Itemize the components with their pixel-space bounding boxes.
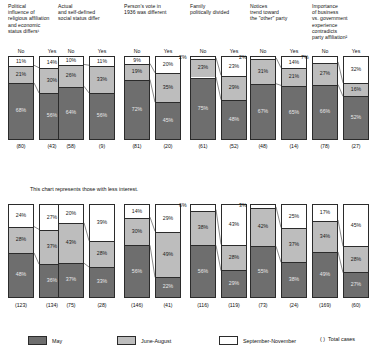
- bar-segment: 37%: [282, 228, 306, 262]
- segment-value: 64%: [66, 110, 76, 115]
- bar-segment: 49%: [156, 232, 180, 277]
- legend-paren-symbol: ( ): [320, 336, 325, 342]
- stacked-bar: 31%67%2%: [250, 56, 276, 140]
- legend-item-june-august: June-August: [117, 336, 171, 345]
- bar-body: 20%35%45%: [155, 56, 181, 140]
- segment-value: 22%: [163, 284, 173, 289]
- bar-segment: 29%: [156, 205, 180, 232]
- bar-segment: 25%: [282, 205, 306, 228]
- total-cases: (169): [312, 302, 338, 308]
- legend-item-may: May: [28, 336, 62, 345]
- total-cases: (119): [221, 302, 247, 308]
- segment-divider: [125, 80, 149, 81]
- segment-value: 30%: [47, 78, 57, 83]
- segment-value: 27%: [320, 71, 330, 76]
- total-cases: (78): [312, 143, 338, 149]
- total-cases: (41): [155, 302, 181, 308]
- segment-divider: [59, 263, 83, 264]
- segment-divider: [90, 241, 114, 242]
- segment-value: 65%: [289, 110, 299, 115]
- segment-value: 28%: [351, 257, 361, 262]
- segment-value-outside: 6%: [179, 203, 187, 208]
- segment-divider: [9, 66, 33, 67]
- segment-value: 42%: [258, 224, 268, 229]
- bar-segment: 14%: [125, 205, 149, 218]
- segment-value: 29%: [229, 85, 239, 90]
- stacked-bar: 23%75%2%: [190, 56, 216, 140]
- bar-body: 14%30%56%: [124, 204, 150, 298]
- bar-segment: 33%: [90, 267, 114, 297]
- segment-divider: [313, 63, 337, 64]
- stacked-bar: 20%35%45%: [155, 56, 181, 140]
- segment-divider: [90, 93, 114, 94]
- segment-value: 10%: [66, 58, 76, 63]
- segment-divider: [251, 59, 275, 60]
- bar-segment: 75%: [191, 78, 215, 140]
- stacked-bar: 20%43%37%: [58, 204, 84, 298]
- stacked-bar: 11%21%68%: [8, 56, 34, 140]
- stacked-bar: 25%37%38%: [281, 204, 307, 298]
- segment-value: 34%: [320, 234, 330, 239]
- segment-value: 55%: [258, 269, 268, 274]
- total-cases: (58): [58, 143, 84, 149]
- segment-value: 56%: [132, 269, 142, 274]
- stacked-bar: 9%19%72%: [124, 56, 150, 140]
- bar-body: 31%67%: [250, 56, 276, 140]
- bar-segment: 28%: [344, 246, 368, 272]
- segment-divider: [251, 246, 275, 247]
- total-cases: (9): [89, 143, 115, 149]
- segment-divider: [282, 86, 306, 87]
- segment-value: 28%: [229, 255, 239, 260]
- bar-segment: 19%: [125, 64, 149, 80]
- bar-segment: 21%: [9, 66, 33, 83]
- bar-segment: 56%: [125, 245, 149, 297]
- segment-value: 35%: [163, 85, 173, 90]
- segment-value: 56%: [47, 113, 57, 118]
- segment-value: 45%: [163, 118, 173, 123]
- bar-body: 25%37%38%: [281, 204, 307, 298]
- stacked-bar: 32%16%52%: [343, 56, 369, 140]
- segment-value: 33%: [97, 279, 107, 284]
- bar-segment: 31%: [251, 59, 275, 84]
- segment-divider: [191, 245, 215, 246]
- segment-divider: [156, 277, 180, 278]
- chart-note: This chart represents those with less in…: [30, 186, 138, 192]
- bar-segment: 49%: [313, 252, 337, 297]
- bar-segment: 38%: [191, 211, 215, 246]
- segment-value: 68%: [16, 108, 26, 113]
- segment-divider: [125, 64, 149, 65]
- bar-segment: 35%: [156, 73, 180, 102]
- segment-divider: [282, 262, 306, 263]
- segment-value: 28%: [16, 237, 26, 242]
- segment-value: 30%: [132, 229, 142, 234]
- segment-value: 20%: [163, 62, 173, 67]
- total-cases: (14): [281, 143, 307, 149]
- segment-divider: [222, 76, 246, 77]
- segment-value: 27%: [351, 282, 361, 287]
- segment-value: 37%: [289, 242, 299, 247]
- stacked-bar: 24%28%48%: [8, 204, 34, 298]
- bar-body: 14%21%65%: [281, 56, 307, 140]
- bar-segment: 11%: [9, 57, 33, 66]
- segment-divider: [156, 73, 180, 74]
- bar-body: 17%34%49%: [312, 204, 338, 298]
- segment-value: 23%: [229, 64, 239, 69]
- total-cases: (80): [8, 143, 34, 149]
- segment-value: 72%: [132, 107, 142, 112]
- bar-body: 45%28%27%: [343, 204, 369, 298]
- stacked-bar: 39%28%33%: [89, 204, 115, 298]
- bar-segment: 32%: [344, 57, 368, 83]
- segment-value: 75%: [198, 106, 208, 111]
- segment-divider: [222, 245, 246, 246]
- segment-divider: [59, 223, 83, 224]
- total-cases: (116): [190, 302, 216, 308]
- segment-value: 52%: [351, 115, 361, 120]
- stacked-bar: 17%34%49%: [312, 204, 338, 298]
- bar-segment: 29%: [222, 270, 246, 297]
- segment-value: 16%: [351, 87, 361, 92]
- stacked-bar: 38%56%6%: [190, 204, 216, 298]
- segment-value: 29%: [229, 281, 239, 286]
- bar-body: 10%26%64%: [58, 56, 84, 140]
- segment-value: 33%: [97, 77, 107, 82]
- bar-segment: 52%: [344, 96, 368, 139]
